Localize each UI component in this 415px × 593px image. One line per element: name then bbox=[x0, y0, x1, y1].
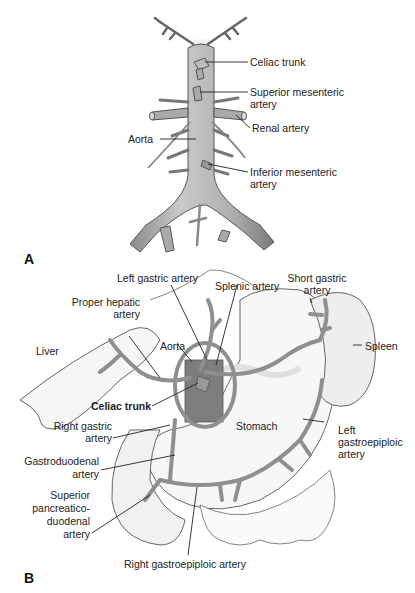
label-inferior-mesenteric-line1: Inferior mesenteric bbox=[250, 166, 337, 178]
panel-letter-a: A bbox=[24, 251, 34, 267]
label-liver: Liver bbox=[36, 345, 59, 357]
label-proper-hepatic-line1: Proper hepatic bbox=[60, 296, 140, 308]
label-sup-pancreaticoduodenal-line1: Superior bbox=[10, 489, 90, 501]
label-aorta-b: Aorta bbox=[160, 340, 185, 352]
label-proper-hepatic-line2: artery bbox=[60, 308, 140, 320]
label-right-gastric-line1: Right gastric bbox=[40, 420, 112, 432]
label-right-gastroepiploic: Right gastroepiploic artery bbox=[124, 558, 246, 570]
label-sup-pancreaticoduodenal-line3: duodenal bbox=[10, 515, 90, 527]
label-superior-mesenteric-line1: Superior mesenteric bbox=[250, 86, 344, 98]
label-short-gastric-line2: artery bbox=[286, 284, 348, 296]
label-left-gastroepiploic-line2: gastroepiploic bbox=[338, 436, 403, 448]
label-superior-mesenteric-line2: artery bbox=[250, 98, 277, 110]
label-gastroduodenal-line1: Gastroduodenal bbox=[14, 455, 99, 467]
label-left-gastroepiploic-line1: Left bbox=[338, 424, 356, 436]
label-celiac-trunk-b: Celiac trunk bbox=[91, 400, 151, 412]
label-aorta-a: Aorta bbox=[128, 133, 153, 145]
label-renal-artery: Renal artery bbox=[252, 122, 309, 134]
panel-letter-b: B bbox=[24, 570, 34, 586]
label-splenic-artery: Splenic artery bbox=[215, 280, 279, 292]
label-gastroduodenal-line2: artery bbox=[14, 468, 99, 480]
label-celiac-trunk-a: Celiac trunk bbox=[250, 56, 305, 68]
label-short-gastric-line1: Short gastric bbox=[286, 272, 348, 284]
label-sup-pancreaticoduodenal-line4: artery bbox=[10, 528, 90, 540]
label-spleen: Spleen bbox=[365, 340, 398, 352]
label-stomach: Stomach bbox=[236, 420, 277, 432]
label-left-gastric-artery: Left gastric artery bbox=[117, 272, 198, 284]
label-sup-pancreaticoduodenal-line2: pancreatico- bbox=[10, 502, 90, 514]
label-inferior-mesenteric-line2: artery bbox=[250, 178, 277, 190]
label-right-gastric-line2: artery bbox=[40, 432, 112, 444]
label-left-gastroepiploic-line3: artery bbox=[338, 448, 365, 460]
